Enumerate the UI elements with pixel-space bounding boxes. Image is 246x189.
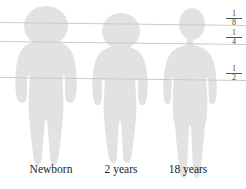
figure-newborn-shape [15, 6, 77, 165]
caption-newborn: Newborn [14, 163, 88, 175]
fraction-denominator: 2 [226, 74, 242, 82]
body-proportions-diagram: 1 8 1 4 1 2 Newborn 2 years 18 years [0, 0, 246, 189]
fraction-label-one-quarter: 1 4 [226, 29, 242, 47]
silhouettes-svg [0, 0, 246, 189]
figure-silhouettes-layer [0, 0, 246, 189]
fraction-denominator: 4 [226, 38, 242, 46]
figure-2-years-shape [92, 13, 148, 163]
caption-2-years: 2 years [88, 163, 154, 175]
figure-18-years-shape [163, 8, 217, 178]
caption-18-years: 18 years [152, 163, 224, 175]
fraction-denominator: 8 [226, 19, 242, 27]
fraction-label-one-eighth: 1 8 [226, 10, 242, 28]
fraction-label-one-half: 1 2 [226, 65, 242, 83]
